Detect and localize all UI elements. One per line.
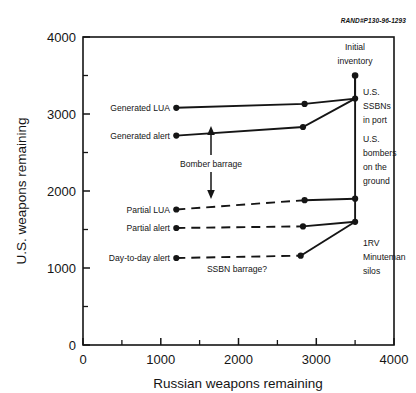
- line-chart-svg: 0 1000 2000 3000 4000 0 1000 2000 3000 4…: [0, 0, 416, 393]
- series-label-day-to-day-alert: Day-to-day alert: [109, 253, 171, 263]
- data-point: [173, 105, 179, 111]
- y-tick-label-0: 0: [69, 338, 76, 353]
- x-axis-major-ticks: [83, 338, 394, 345]
- y-tick-label-2000: 2000: [47, 184, 76, 199]
- data-point: [173, 206, 179, 212]
- series-inline-labels: Generated LUA Generated alert Partial LU…: [109, 103, 171, 263]
- annotation-us-bombers-on-ground: U.S. bombers on the ground: [363, 134, 396, 186]
- data-point: [300, 124, 306, 130]
- annotation-bomber-barrage: Bomber barrage: [180, 126, 242, 199]
- annot-mm-line3: silos: [363, 266, 380, 276]
- series-day-to-day-alert: [173, 222, 355, 261]
- annot-ssbn-line2: SSBNs: [363, 101, 391, 111]
- series-label-generated-lua: Generated LUA: [110, 103, 170, 113]
- annot-initial-line1: Initial: [345, 42, 365, 52]
- annotation-us-ssbns-in-port: U.S. SSBNs in port: [363, 87, 391, 125]
- series-label-partial-lua: Partial LUA: [127, 205, 171, 215]
- plot-frame: [83, 37, 394, 345]
- series-label-generated-alert: Generated alert: [110, 131, 170, 141]
- series-partial-alert: [173, 219, 358, 231]
- x-tick-label-3000: 3000: [302, 352, 331, 367]
- annot-ssbn-barrage-label: SSBN barrage?: [207, 264, 267, 274]
- x-tick-label-0: 0: [79, 352, 86, 367]
- y-tick-label-4000: 4000: [47, 30, 76, 45]
- data-point: [352, 72, 359, 79]
- arrow-head-down: [207, 190, 215, 199]
- data-point: [352, 196, 358, 202]
- data-point: [173, 133, 179, 139]
- data-point: [302, 197, 308, 203]
- x-tick-label-4000: 4000: [380, 352, 409, 367]
- annot-mm-line2: Minuteman: [363, 252, 406, 262]
- y-tick-labels: 0 1000 2000 3000 4000: [47, 30, 76, 353]
- data-point: [173, 255, 179, 261]
- series-label-partial-alert: Partial alert: [127, 223, 171, 233]
- y-tick-label-3000: 3000: [47, 107, 76, 122]
- data-point: [302, 101, 308, 107]
- annotation-initial-inventory: Initial inventory: [338, 42, 374, 66]
- annot-bomber-barrage-label: Bomber barrage: [180, 159, 242, 169]
- x-tick-labels: 0 1000 2000 3000 4000: [79, 352, 408, 367]
- series-generated-lua: [173, 72, 358, 111]
- annotation-minuteman-silos: 1RV Minuteman silos: [363, 238, 406, 276]
- data-point: [300, 223, 306, 229]
- annot-ssbn-line3: in port: [363, 115, 387, 125]
- data-point: [173, 225, 179, 231]
- annot-bomb-line2: bombers: [363, 148, 396, 158]
- x-tick-label-1000: 1000: [146, 352, 175, 367]
- annot-mm-line1: 1RV: [363, 238, 380, 248]
- annot-bomb-line3: on the: [363, 162, 387, 172]
- x-tick-label-2000: 2000: [224, 352, 253, 367]
- chart-figure: RAND#P130-96-1293: [0, 0, 416, 393]
- annot-initial-line2: inventory: [338, 56, 374, 66]
- annot-bomb-line4: ground: [363, 176, 390, 186]
- series-partial-lua: [173, 196, 358, 213]
- data-point: [298, 253, 304, 259]
- annot-bomb-line1: U.S.: [363, 134, 380, 144]
- y-tick-label-1000: 1000: [47, 261, 76, 276]
- arrow-head-up: [207, 126, 215, 135]
- y-axis-major-ticks: [83, 37, 90, 345]
- data-point: [352, 96, 358, 102]
- x-axis-title: Russian weapons remaining: [153, 376, 323, 391]
- annot-ssbn-line1: U.S.: [363, 87, 380, 97]
- y-axis-title: U.S. weapons remaining: [14, 117, 29, 264]
